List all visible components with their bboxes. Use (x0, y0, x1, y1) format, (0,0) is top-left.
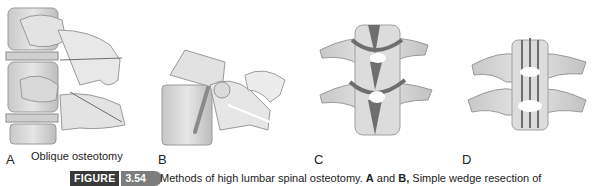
panel-letter-d: D (462, 152, 471, 167)
panel-letter-a: A (6, 152, 15, 167)
figure-label: FIGURE (70, 171, 119, 186)
panel-b: B (150, 40, 310, 165)
spine-illustration-b (150, 40, 310, 150)
panel-a-subcaption: Oblique osteotomy (31, 150, 123, 162)
panel-letter-c: C (314, 152, 323, 167)
panel-a: A Oblique osteotomy (0, 0, 140, 165)
figure-badge: FIGURE 3.54 (70, 171, 162, 186)
panel-c: C (300, 0, 450, 165)
spine-illustration-c (300, 0, 450, 150)
spine-illustration-a (0, 0, 140, 150)
caption-text-3: Simple wedge resection of (409, 172, 541, 184)
panel-d: D (450, 0, 596, 165)
spine-illustration-d (450, 0, 596, 150)
panel-letter-b: B (158, 152, 167, 167)
figure-number: 3.54 (121, 171, 161, 186)
caption-text-1: Methods of high lumbar spinal osteotomy. (160, 172, 366, 184)
caption-bold-a: A (366, 172, 374, 184)
figure-caption: Methods of high lumbar spinal osteotomy.… (160, 172, 541, 184)
caption-text-2: and (374, 172, 398, 184)
caption-bold-b: B, (398, 172, 409, 184)
